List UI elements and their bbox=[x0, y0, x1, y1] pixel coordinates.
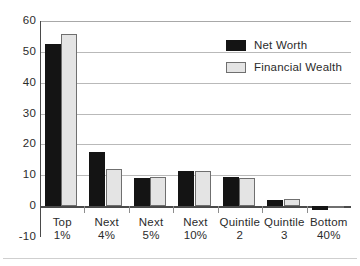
y-tick-label-60: 60 bbox=[2, 15, 36, 27]
legend-item-net-worth: Net Worth bbox=[226, 34, 342, 56]
y-tick-label-40: 40 bbox=[2, 77, 36, 89]
x-tick-2 bbox=[129, 206, 130, 213]
bar-net-worth-6 bbox=[312, 206, 328, 210]
legend-item-financial-wealth: Financial Wealth bbox=[226, 56, 342, 78]
x-category-label-5: Quintile3 bbox=[262, 216, 306, 242]
x-category-label-2: Next5% bbox=[129, 216, 173, 242]
x-tick-4 bbox=[218, 206, 219, 213]
bar-net-worth-5 bbox=[267, 200, 283, 206]
bar-financial-wealth-1 bbox=[106, 169, 122, 206]
legend: Net WorthFinancial Wealth bbox=[226, 34, 342, 78]
x-category-label-1: Next4% bbox=[84, 216, 128, 242]
bar-financial-wealth-2 bbox=[150, 177, 166, 206]
bar-net-worth-0 bbox=[45, 44, 61, 206]
bar-net-worth-3 bbox=[178, 171, 194, 206]
x-category-line2: 5% bbox=[129, 229, 173, 242]
y-tick-label--10: -10 bbox=[2, 231, 36, 243]
x-category-line2: 1% bbox=[40, 229, 84, 242]
x-category-line1: Next bbox=[129, 216, 173, 229]
legend-swatch-icon bbox=[226, 62, 246, 73]
legend-swatch-icon bbox=[226, 40, 246, 51]
bar-financial-wealth-4 bbox=[239, 178, 255, 206]
bar-financial-wealth-0 bbox=[61, 34, 77, 206]
x-category-line1: Next bbox=[84, 216, 128, 229]
x-category-line2: 3 bbox=[262, 229, 306, 242]
bar-financial-wealth-5 bbox=[284, 199, 300, 206]
x-tick-1 bbox=[84, 206, 85, 213]
y-tick-label-50: 50 bbox=[2, 46, 36, 58]
x-category-label-4: Quintile2 bbox=[218, 216, 262, 242]
x-category-line1: Next bbox=[173, 216, 217, 229]
y-tick-label-30: 30 bbox=[2, 108, 36, 120]
x-category-line1: Bottom bbox=[307, 216, 351, 229]
x-category-line1: Top bbox=[40, 216, 84, 229]
y-tick-label-10: 10 bbox=[2, 169, 36, 181]
bar-financial-wealth-3 bbox=[195, 171, 211, 206]
legend-label: Net Worth bbox=[254, 39, 307, 51]
bar-net-worth-4 bbox=[223, 177, 239, 206]
x-tick-6 bbox=[307, 206, 308, 213]
bar-net-worth-2 bbox=[134, 178, 150, 206]
bottom-divider bbox=[3, 258, 357, 259]
x-category-line2: 4% bbox=[84, 229, 128, 242]
x-category-label-0: Top1% bbox=[40, 216, 84, 242]
bar-financial-wealth-6 bbox=[328, 206, 344, 208]
x-category-line2: 2 bbox=[218, 229, 262, 242]
x-category-line2: 40% bbox=[307, 229, 351, 242]
x-category-line2: 10% bbox=[173, 229, 217, 242]
bar-net-worth-1 bbox=[89, 152, 105, 206]
legend-label: Financial Wealth bbox=[254, 61, 342, 73]
x-tick-5 bbox=[262, 206, 263, 213]
y-tick-label-0: 0 bbox=[2, 200, 36, 212]
x-category-label-3: Next10% bbox=[173, 216, 217, 242]
y-tick-label-20: 20 bbox=[2, 138, 36, 150]
x-tick-3 bbox=[173, 206, 174, 213]
x-category-line1: Quintile bbox=[218, 216, 262, 229]
x-category-line1: Quintile bbox=[262, 216, 306, 229]
x-category-label-6: Bottom40% bbox=[307, 216, 351, 242]
bar-chart-figure: 6050403020100-10 Top1%Next4%Next5%Next10… bbox=[0, 0, 360, 266]
